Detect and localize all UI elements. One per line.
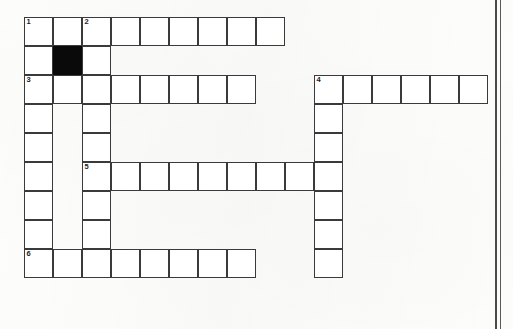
crossword-cell[interactable] [198,17,227,46]
crossword-cell[interactable] [111,75,140,104]
crossword-cell[interactable] [82,133,111,162]
crossword-cell[interactable] [430,75,459,104]
crossword-cell[interactable] [140,162,169,191]
crossword-cell[interactable] [169,249,198,278]
crossword-cell[interactable] [82,220,111,249]
crossword-cell[interactable] [24,191,53,220]
crossword-cell[interactable] [111,162,140,191]
crossword-cell[interactable] [53,75,82,104]
crossword-cell[interactable] [140,17,169,46]
crossword-cell[interactable] [314,133,343,162]
crossword-cell[interactable] [53,249,82,278]
crossword-cell[interactable] [256,162,285,191]
crossword-cell[interactable] [140,75,169,104]
crossword-cell[interactable]: 2 [82,17,111,46]
crossword-cell[interactable] [53,17,82,46]
crossword-cell[interactable] [82,249,111,278]
crossword-cell[interactable] [256,17,285,46]
crossword-cell[interactable] [24,220,53,249]
crossword-cell[interactable] [111,249,140,278]
crossword-cell[interactable] [140,249,169,278]
crossword-cell[interactable] [111,17,140,46]
crossword-cell[interactable] [198,249,227,278]
crossword-cell[interactable] [314,249,343,278]
clue-number-4: 4 [317,76,321,84]
crossword-cell[interactable] [459,75,488,104]
crossword-cell[interactable] [198,75,227,104]
crossword-cell[interactable] [314,191,343,220]
crossword-cell[interactable] [82,46,111,75]
crossword-blocked-cell [53,46,82,75]
page-edge-line-1 [495,0,497,329]
crossword-cell[interactable] [314,104,343,133]
clue-number-3: 3 [27,76,31,84]
crossword-cell[interactable] [169,75,198,104]
clue-number-1: 1 [27,18,31,26]
crossword-cell[interactable] [24,162,53,191]
crossword-cell[interactable] [227,162,256,191]
crossword-cell[interactable] [82,191,111,220]
crossword-cell[interactable] [314,220,343,249]
crossword-cell[interactable]: 1 [24,17,53,46]
crossword-cell[interactable] [198,162,227,191]
crossword-cell[interactable] [169,17,198,46]
crossword-cell[interactable]: 6 [24,249,53,278]
clue-number-2: 2 [85,18,89,26]
crossword-cell[interactable] [24,104,53,133]
page-edge-line-2 [500,0,501,329]
crossword-cell[interactable] [314,162,343,191]
crossword-cell[interactable]: 5 [82,162,111,191]
crossword-cell[interactable] [82,104,111,133]
crossword-cell[interactable] [227,75,256,104]
crossword-cell[interactable] [227,249,256,278]
crossword-cell[interactable]: 3 [24,75,53,104]
clue-number-5: 5 [85,163,89,171]
crossword-cell[interactable] [169,162,198,191]
crossword-cell[interactable] [343,75,372,104]
crossword-cell[interactable] [24,46,53,75]
page-edge-binding [490,0,500,329]
crossword-cell[interactable] [372,75,401,104]
crossword-cell[interactable] [82,75,111,104]
clue-number-6: 6 [27,250,31,258]
crossword-grid[interactable]: 123456 [0,0,513,329]
crossword-cell[interactable] [227,17,256,46]
crossword-cell[interactable] [285,162,314,191]
crossword-cell[interactable] [24,133,53,162]
crossword-cell[interactable] [401,75,430,104]
crossword-cell[interactable]: 4 [314,75,343,104]
